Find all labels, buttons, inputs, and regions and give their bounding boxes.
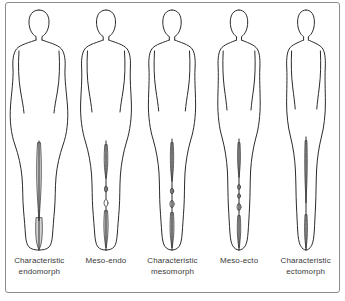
label-line-1: Characteristic — [139, 256, 205, 267]
female-body-silhouette-icon — [206, 3, 272, 255]
somatotype-labels-row: Characteristic endomorph Meso-endo Chara… — [6, 256, 339, 290]
silhouette-cell-meso-endo — [73, 3, 139, 255]
female-body-silhouette-icon — [273, 3, 339, 255]
silhouette-cell-meso-ecto — [206, 3, 272, 255]
label-line-1: Meso-ecto — [206, 256, 272, 267]
label-line-1: Characteristic — [273, 256, 339, 267]
silhouette-cell-mesomorph — [139, 3, 205, 255]
label-line-2: mesomorph — [139, 267, 205, 278]
label-line-1: Meso-endo — [73, 256, 139, 267]
label-line-2: endomorph — [6, 267, 72, 278]
female-body-silhouette-icon — [139, 3, 205, 255]
somatotype-label-mesomorph: Characteristic mesomorph — [139, 256, 205, 277]
somatotype-figure-panel: Characteristic endomorph Meso-endo Chara… — [0, 0, 345, 301]
somatotype-label-meso-ecto: Meso-ecto — [206, 256, 272, 267]
somatotype-label-ectomorph: Characteristic ectomorph — [273, 256, 339, 277]
female-body-silhouette-icon — [73, 3, 139, 255]
silhouette-cell-ectomorph — [273, 3, 339, 255]
silhouette-row — [6, 3, 339, 255]
somatotype-label-meso-endo: Meso-endo — [73, 256, 139, 267]
somatotype-label-endomorph: Characteristic endomorph — [6, 256, 72, 277]
female-body-silhouette-icon — [6, 3, 72, 255]
label-line-1: Characteristic — [6, 256, 72, 267]
label-line-2: ectomorph — [273, 267, 339, 278]
silhouette-cell-endomorph — [6, 3, 72, 255]
